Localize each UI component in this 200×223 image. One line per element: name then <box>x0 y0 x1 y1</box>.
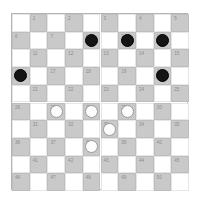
board-square-light <box>154 49 172 67</box>
square-number-label: 15 <box>174 51 179 57</box>
square-number-label: 22 <box>68 87 73 93</box>
square-number-label: 11 <box>33 51 38 57</box>
square-number-label: 5 <box>174 16 177 22</box>
board-square-27[interactable]: 27 <box>47 103 65 121</box>
board-square-25[interactable]: 25 <box>171 85 189 103</box>
board-square-9[interactable]: 9 <box>118 32 136 50</box>
board-square-19[interactable]: 19 <box>118 67 136 85</box>
square-number-label: 36 <box>15 140 20 146</box>
board-square-light <box>30 138 48 156</box>
board-square-light <box>65 103 83 121</box>
board-square-18[interactable]: 18 <box>83 67 101 85</box>
black-checker-piece[interactable] <box>85 34 98 47</box>
black-checker-piece[interactable] <box>121 34 134 47</box>
board-square-light <box>83 49 101 67</box>
board-square-49[interactable]: 49 <box>118 173 136 191</box>
board-square-light <box>154 85 172 103</box>
square-number-label: 42 <box>68 158 73 164</box>
board-square-light <box>154 120 172 138</box>
board-square-43[interactable]: 43 <box>101 156 119 174</box>
white-checker-piece[interactable] <box>85 140 98 153</box>
board-square-45[interactable]: 45 <box>171 156 189 174</box>
board-square-35[interactable]: 35 <box>171 120 189 138</box>
board-square-50[interactable]: 50 <box>154 173 172 191</box>
square-number-label: 46 <box>15 175 20 181</box>
board-square-48[interactable]: 48 <box>83 173 101 191</box>
white-checker-piece[interactable] <box>85 105 98 118</box>
board-square-light <box>83 85 101 103</box>
board-square-42[interactable]: 42 <box>65 156 83 174</box>
board-square-light <box>65 173 83 191</box>
square-number-label: 40 <box>157 140 162 146</box>
black-checker-piece[interactable] <box>156 34 169 47</box>
board-square-light <box>171 138 189 156</box>
board-square-24[interactable]: 24 <box>136 85 154 103</box>
board-square-22[interactable]: 22 <box>65 85 83 103</box>
board-square-2[interactable]: 2 <box>65 14 83 32</box>
square-number-label: 2 <box>68 16 71 22</box>
white-checker-piece[interactable] <box>121 105 134 118</box>
board-square-light <box>101 173 119 191</box>
board-square-17[interactable]: 17 <box>47 67 65 85</box>
board-square-29[interactable]: 29 <box>118 103 136 121</box>
square-number-label: 37 <box>50 140 55 146</box>
board-square-34[interactable]: 34 <box>136 120 154 138</box>
board-square-40[interactable]: 40 <box>154 138 172 156</box>
board-square-7[interactable]: 7 <box>47 32 65 50</box>
board-square-28[interactable]: 28 <box>83 103 101 121</box>
board-square-13[interactable]: 13 <box>101 49 119 67</box>
board-square-light <box>47 120 65 138</box>
black-checker-piece[interactable] <box>156 69 169 82</box>
board-square-6[interactable]: 6 <box>12 32 30 50</box>
board-square-11[interactable]: 11 <box>30 49 48 67</box>
draughts-board[interactable]: 1234567891011121314151617181920212223242… <box>11 13 188 190</box>
square-number-label: 14 <box>139 51 144 57</box>
square-number-label: 43 <box>104 158 109 164</box>
board-square-47[interactable]: 47 <box>47 173 65 191</box>
board-square-1[interactable]: 1 <box>30 14 48 32</box>
board-square-44[interactable]: 44 <box>136 156 154 174</box>
board-square-light <box>118 156 136 174</box>
square-number-label: 1 <box>33 16 36 22</box>
board-square-32[interactable]: 32 <box>65 120 83 138</box>
square-number-label: 7 <box>50 34 53 40</box>
white-checker-piece[interactable] <box>103 123 116 136</box>
square-number-label: 26 <box>15 105 20 111</box>
board-square-light <box>30 67 48 85</box>
board-square-light <box>136 67 154 85</box>
board-square-23[interactable]: 23 <box>101 85 119 103</box>
square-number-label: 17 <box>50 69 55 75</box>
white-checker-piece[interactable] <box>50 105 63 118</box>
board-square-26[interactable]: 26 <box>12 103 30 121</box>
board-square-10[interactable]: 10 <box>154 32 172 50</box>
square-number-label: 32 <box>68 122 73 128</box>
board-square-12[interactable]: 12 <box>65 49 83 67</box>
board-square-light <box>171 173 189 191</box>
board-square-41[interactable]: 41 <box>30 156 48 174</box>
square-number-label: 3 <box>104 16 107 22</box>
board-square-36[interactable]: 36 <box>12 138 30 156</box>
board-square-20[interactable]: 20 <box>154 67 172 85</box>
board-square-5[interactable]: 5 <box>171 14 189 32</box>
board-square-37[interactable]: 37 <box>47 138 65 156</box>
board-square-8[interactable]: 8 <box>83 32 101 50</box>
board-square-38[interactable]: 38 <box>83 138 101 156</box>
board-square-light <box>47 49 65 67</box>
board-square-16[interactable]: 16 <box>12 67 30 85</box>
board-square-31[interactable]: 31 <box>30 120 48 138</box>
board-square-4[interactable]: 4 <box>136 14 154 32</box>
board-square-15[interactable]: 15 <box>171 49 189 67</box>
board-square-light <box>30 173 48 191</box>
board-square-33[interactable]: 33 <box>101 120 119 138</box>
square-number-label: 49 <box>121 175 126 181</box>
square-number-label: 18 <box>86 69 91 75</box>
board-square-39[interactable]: 39 <box>118 138 136 156</box>
board-square-46[interactable]: 46 <box>12 173 30 191</box>
board-square-21[interactable]: 21 <box>30 85 48 103</box>
black-checker-piece[interactable] <box>14 69 27 82</box>
board-square-14[interactable]: 14 <box>136 49 154 67</box>
board-square-3[interactable]: 3 <box>101 14 119 32</box>
board-square-30[interactable]: 30 <box>154 103 172 121</box>
square-number-label: 30 <box>157 105 162 111</box>
square-number-label: 23 <box>104 87 109 93</box>
